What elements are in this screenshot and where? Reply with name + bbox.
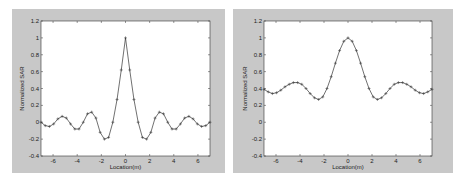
y-tick-label: 0.8 <box>254 52 263 58</box>
x-tick-label: -4 <box>75 158 81 164</box>
y-tick-label: 0 <box>259 119 263 125</box>
x-tick-label: 2 <box>148 158 152 164</box>
x-tick-label: 6 <box>196 158 200 164</box>
y-tick-label: 0.6 <box>254 69 263 75</box>
y-tick-label: 1 <box>36 35 40 41</box>
x-axis-label: Location(m) <box>332 164 364 170</box>
y-tick-label: 1.2 <box>254 18 263 24</box>
chart-svg: -6-4-20246-0.4-0.200.20.40.60.811.2Locat… <box>233 9 453 173</box>
y-tick-label: 0.8 <box>31 52 40 58</box>
y-tick-label: 1 <box>259 35 263 41</box>
x-tick-label: -6 <box>50 158 56 164</box>
y-tick-label: -0.4 <box>29 153 40 159</box>
y-tick-label: 0 <box>36 119 40 125</box>
x-tick-label: -6 <box>273 158 279 164</box>
y-axis-label: Normalized SAR <box>19 66 25 111</box>
y-tick-label: 0.2 <box>31 102 40 108</box>
chart-panel-right: -6-4-20246-0.4-0.200.20.40.60.811.2Locat… <box>233 9 453 173</box>
x-tick-label: 4 <box>172 158 176 164</box>
y-tick-label: 0.4 <box>31 86 40 92</box>
y-tick-label: -0.2 <box>252 136 263 142</box>
y-tick-label: -0.4 <box>252 153 263 159</box>
y-tick-label: 0.6 <box>31 69 40 75</box>
x-axis-label: Location(m) <box>110 164 142 170</box>
x-tick-label: 6 <box>418 158 422 164</box>
plot-area <box>264 21 432 156</box>
y-tick-label: -0.2 <box>29 136 40 142</box>
x-tick-label: -2 <box>321 158 327 164</box>
plot-area <box>41 21 210 156</box>
chart-svg: -6-4-20246-0.4-0.200.20.40.60.811.2Locat… <box>12 9 225 173</box>
x-tick-label: 4 <box>394 158 398 164</box>
x-tick-label: 2 <box>370 158 374 164</box>
y-tick-label: 0.4 <box>254 86 263 92</box>
y-axis-label: Normalized SAR <box>242 66 248 111</box>
y-tick-label: 0.2 <box>254 102 263 108</box>
y-tick-label: 1.2 <box>31 18 40 24</box>
x-tick-label: -4 <box>297 158 303 164</box>
chart-panel-left: -6-4-20246-0.4-0.200.20.40.60.811.2Locat… <box>12 9 225 173</box>
x-tick-label: -2 <box>99 158 105 164</box>
